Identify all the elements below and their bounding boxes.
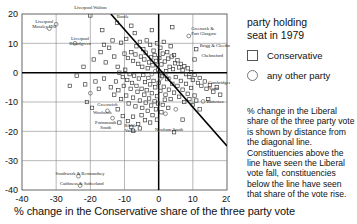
legend-entry-other: any other party: [247, 70, 355, 81]
annotation-label: Port Glasgow: [191, 31, 217, 36]
annotation-label: Mossley Hill: [32, 24, 57, 29]
x-tick-label: 10: [188, 194, 198, 204]
annotation-label: Liverpool Walton: [74, 5, 107, 10]
x-tick-label: -40: [15, 194, 28, 204]
annotation-label: Battersea: [207, 99, 224, 104]
annotation-label: Southwark & Bermondsey: [56, 171, 106, 176]
x-tick-label: -10: [118, 194, 131, 204]
annotation-label: Caithness & Sutherland: [60, 181, 104, 186]
legend-title-line1: party holding: [247, 16, 355, 29]
annotation-label: Broadgreen: [69, 41, 91, 46]
annotation-label: Newham South: [155, 127, 184, 132]
x-axis-title: % change in the Conservative share of th…: [14, 205, 295, 217]
annotation-label: Brigg & Cleethorpes: [200, 43, 230, 48]
annotation-label: Greenwich: [97, 102, 118, 107]
x-tick-label: 20: [222, 194, 230, 204]
annotation-label: Bootle: [117, 14, 129, 19]
explanatory-note: % change in the Liberal share of the thr…: [247, 106, 357, 200]
annotation-label: Woolwich: [93, 110, 112, 115]
annotation-label: Chelmsford: [201, 53, 223, 58]
legend-title-line2: seat in 1979: [247, 29, 355, 42]
x-tick-label: -30: [50, 194, 63, 204]
annotation-label: South: [100, 125, 111, 130]
legend: party holding seat in 1979 Conservative …: [247, 16, 355, 81]
legend-label-conservative: Conservative: [267, 50, 322, 61]
scatter-plot-svg: -40-30-20-100102020100-10-20-30-40Liverp…: [0, 0, 230, 224]
square-marker-icon: [247, 50, 258, 61]
x-tick-label: -20: [84, 194, 97, 204]
y-tick-label: -30: [5, 156, 18, 166]
y-tick-label: -10: [5, 97, 18, 107]
x-tick-label: 0: [156, 194, 161, 204]
legend-title: party holding seat in 1979: [247, 16, 355, 41]
y-tick-label: -40: [5, 185, 18, 195]
scatter-plot-area: -40-30-20-100102020100-10-20-30-40Liverp…: [0, 0, 230, 224]
y-tick-label: 20: [8, 9, 18, 19]
annotation-label: Valley: [125, 128, 137, 133]
legend-label-other: any other party: [267, 70, 330, 81]
chart-figure: -40-30-20-100102020100-10-20-30-40Liverp…: [0, 0, 357, 224]
circle-marker-icon: [247, 70, 258, 81]
y-tick-label: 10: [8, 39, 18, 49]
legend-entry-conservative: Conservative: [247, 50, 355, 61]
y-tick-label: -20: [5, 127, 18, 137]
y-tick-label: 0: [13, 68, 18, 78]
annotation-label: North: [208, 86, 219, 91]
